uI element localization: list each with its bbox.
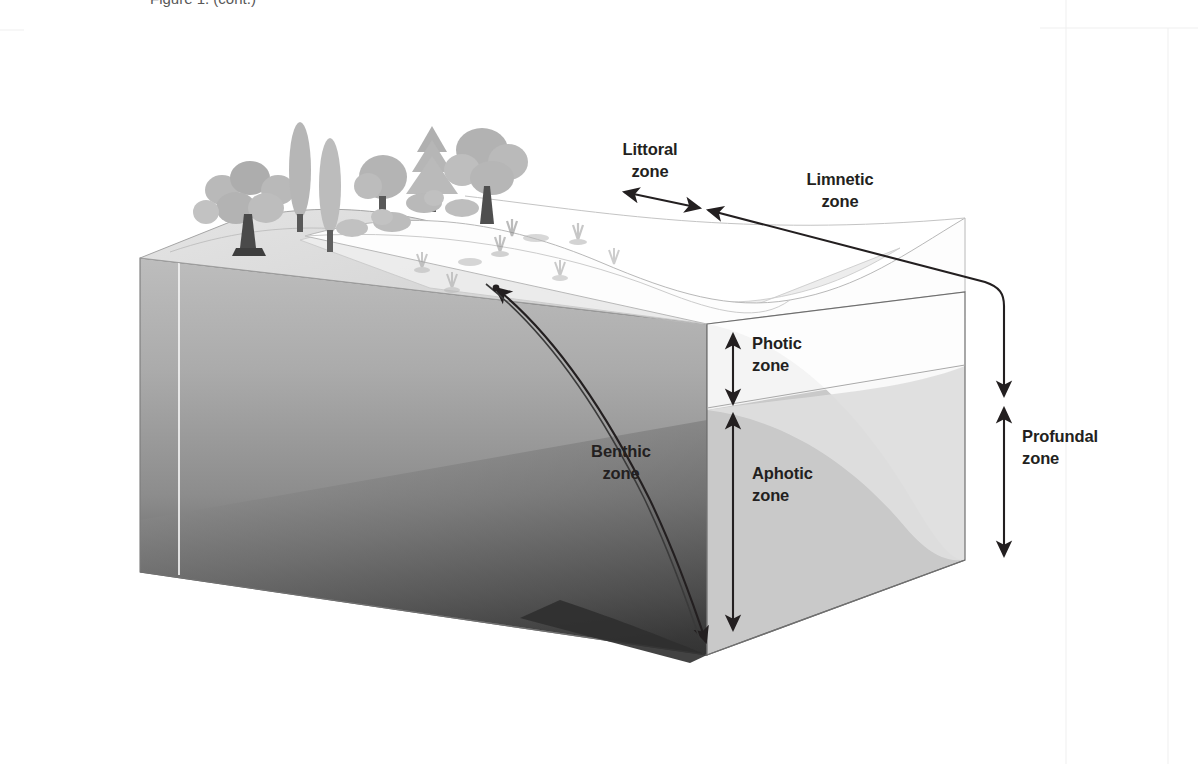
figure-canvas: Figure 1. (cont.) Littoral zone Limnetic… — [0, 0, 1198, 764]
benthic-arrow-origin — [493, 285, 500, 292]
lake-zonation-diagram — [0, 0, 1198, 764]
reed-cluster — [609, 248, 619, 264]
figure-title-fragment: Figure 1. (cont.) — [150, 0, 256, 7]
round-tree — [354, 155, 407, 218]
reed-cluster — [569, 223, 587, 245]
benthic-zone-label: Benthic zone — [566, 440, 676, 485]
lily-pad — [523, 234, 549, 242]
photic-zone-label: Photic zone — [752, 332, 862, 377]
littoral-zone-label: Littoral zone — [590, 138, 710, 183]
aphotic-zone-label: Aphotic zone — [752, 462, 862, 507]
profundal-zone-label: Profundal zone — [1022, 425, 1152, 470]
shrub — [445, 199, 479, 217]
shrub — [336, 219, 368, 237]
limnetic-zone-label: Limnetic zone — [780, 168, 900, 213]
littoral-measure-arrow — [624, 192, 700, 208]
lily-pad — [458, 258, 482, 266]
